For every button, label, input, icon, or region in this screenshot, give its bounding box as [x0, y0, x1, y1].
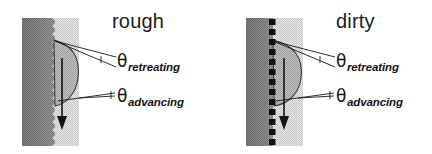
theta-symbol: θ: [336, 51, 346, 71]
label-theta-retreating-dirty: θretreating: [336, 53, 398, 70]
label-theta-advancing-rough: θadvancing: [117, 88, 183, 105]
label-theta-retreating-rough: θretreating: [117, 53, 179, 70]
solid-block-texture-dirty: [246, 18, 273, 146]
panel-rough: rough θretreating θadvancing: [0, 0, 216, 154]
solid-block-texture-rough: [22, 18, 55, 146]
theta-subscript: retreating: [128, 61, 180, 73]
panel-dirty: dirty θretreating θadvancing: [216, 0, 432, 154]
panel-title-rough: rough: [112, 11, 164, 31]
theta-symbol: θ: [336, 86, 346, 106]
theta-subscript: advancing: [128, 96, 184, 108]
theta-symbol: θ: [117, 51, 127, 71]
rough-surface-diagram: [0, 0, 216, 154]
panel-title-dirty: dirty: [336, 11, 375, 31]
theta-symbol: θ: [117, 86, 127, 106]
label-theta-advancing-dirty: θadvancing: [336, 88, 402, 105]
theta-subscript: advancing: [347, 96, 403, 108]
theta-subscript: retreating: [347, 61, 399, 73]
contact-angle-figure: rough θretreating θadvancing: [0, 0, 432, 154]
dirty-surface-diagram: [216, 0, 432, 154]
